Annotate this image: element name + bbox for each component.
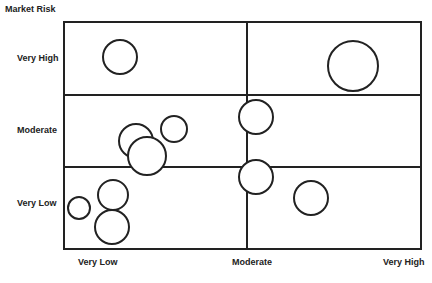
bubble	[95, 210, 129, 244]
bubble	[161, 116, 187, 142]
bubble	[239, 160, 273, 194]
bubble	[68, 197, 90, 219]
bubble	[294, 181, 328, 215]
risk-matrix-chart	[0, 0, 432, 283]
bubbles	[68, 40, 378, 244]
bubble	[98, 180, 128, 210]
bubble	[103, 40, 137, 74]
bubble	[328, 41, 378, 91]
bubble	[239, 100, 273, 134]
bubble	[128, 137, 166, 175]
